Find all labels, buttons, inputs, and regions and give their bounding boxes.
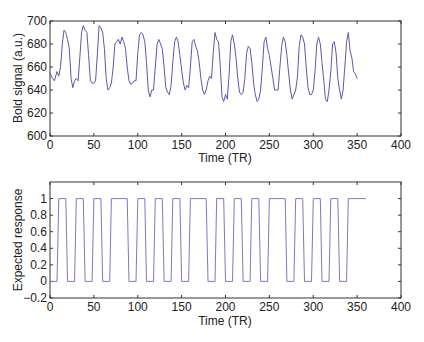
y-tick-label: 620 (27, 106, 47, 120)
x-tick-label: 200 (215, 300, 235, 314)
x-tick-label: 100 (128, 300, 148, 314)
y-tick-label: 0 (40, 274, 47, 288)
top-plot: 050100150200250300350400 600620640660680… (11, 14, 411, 165)
y-tick-label: 700 (27, 14, 47, 28)
y-tick-label: 0.2 (30, 258, 47, 272)
y-tick-label: 1 (40, 192, 47, 206)
figure: 050100150200250300350400 600620640660680… (0, 0, 424, 342)
top-x-axis-label: Time (TR) (198, 151, 252, 165)
x-tick-label: 150 (172, 138, 192, 152)
top-axes-box (50, 21, 401, 136)
y-tick-label: −0.2 (23, 291, 47, 305)
x-tick-label: 300 (303, 300, 323, 314)
x-tick-label: 300 (303, 138, 323, 152)
x-tick-label: 0 (47, 138, 54, 152)
y-tick-label: 680 (27, 37, 47, 51)
bottom-plot: 050100150200250300350400 −0.200.20.40.60… (11, 182, 411, 328)
x-tick-label: 250 (259, 300, 279, 314)
y-tick-label: 0.6 (30, 225, 47, 239)
bottom-x-axis-label: Time (TR) (198, 314, 252, 328)
bottom-y-axis-label: Expected response (11, 188, 25, 291)
top-y-axis-label: Bold signal (a.u.) (11, 33, 25, 123)
y-tick-label: 600 (27, 129, 47, 143)
x-tick-label: 0 (47, 300, 54, 314)
x-tick-label: 400 (391, 138, 411, 152)
x-tick-label: 250 (259, 138, 279, 152)
y-tick-label: 660 (27, 60, 47, 74)
x-tick-label: 400 (391, 300, 411, 314)
y-tick-label: 640 (27, 83, 47, 97)
x-tick-label: 50 (87, 138, 101, 152)
x-tick-label: 50 (87, 300, 101, 314)
y-tick-label: 0.4 (30, 241, 47, 255)
y-tick-label: 0.8 (30, 208, 47, 222)
x-tick-label: 100 (128, 138, 148, 152)
x-tick-label: 200 (215, 138, 235, 152)
x-tick-label: 350 (347, 138, 367, 152)
x-tick-label: 350 (347, 300, 367, 314)
x-tick-label: 150 (172, 300, 192, 314)
